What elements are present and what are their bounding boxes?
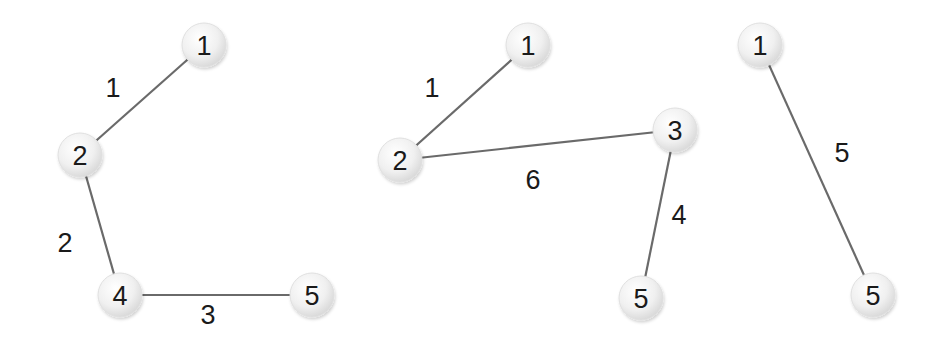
graph-3-edge-weight-1-5: 5 — [834, 138, 849, 168]
node-label: 1 — [752, 31, 767, 61]
graph-2-edge-2-3 — [400, 130, 675, 160]
node-label: 2 — [72, 141, 87, 171]
graph-3-edge-1-5 — [760, 45, 873, 295]
node-label: 5 — [633, 284, 648, 314]
graph-1-edge-1-2 — [80, 45, 204, 155]
graph-3-node-1: 1 — [738, 23, 782, 67]
graph-2-node-2: 2 — [378, 138, 422, 182]
graph-1-edge-weight-1-2: 1 — [105, 73, 120, 103]
graph-diagram: 1245123515 1231645 — [0, 0, 944, 350]
graph-1-edge-weight-4-5: 3 — [200, 300, 215, 330]
graph-3-node-5: 5 — [851, 273, 895, 317]
graph-2-edge-weight-1-2: 1 — [424, 73, 439, 103]
graph-1-node-1: 1 — [182, 23, 226, 67]
diagram-canvas: 1245123515 1231645 — [0, 0, 944, 350]
node-label: 1 — [520, 31, 535, 61]
graph-2-edge-weight-3-5: 4 — [671, 200, 686, 230]
graph-1-node-4: 4 — [98, 273, 142, 317]
graph-1-edge-weight-2-4: 2 — [57, 228, 72, 258]
node-label: 1 — [196, 31, 211, 61]
edges-layer — [80, 45, 873, 298]
graph-2-node-1: 1 — [506, 23, 550, 67]
graph-2-edge-3-5 — [641, 130, 675, 298]
graph-2-node-3: 3 — [653, 108, 697, 152]
node-label: 2 — [392, 146, 407, 176]
node-label: 5 — [865, 281, 880, 311]
graph-2-edge-1-2 — [400, 45, 528, 160]
graph-1-node-2: 2 — [58, 133, 102, 177]
node-label: 5 — [304, 281, 319, 311]
node-label: 4 — [112, 281, 127, 311]
node-label: 3 — [667, 116, 682, 146]
graph-2-node-5: 5 — [619, 276, 663, 320]
graph-1-node-5: 5 — [290, 273, 334, 317]
graph-2-edge-weight-2-3: 6 — [525, 165, 540, 195]
